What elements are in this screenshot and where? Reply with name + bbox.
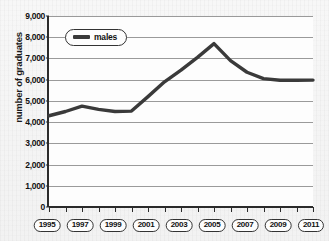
x-axis-tick-mark: [132, 207, 133, 212]
x-axis-tick-mark: [198, 207, 199, 212]
x-axis-year-label-2011: 2011: [298, 219, 324, 232]
y-axis-tick-label: 3,000: [25, 138, 45, 148]
x-axis-year-label-1997: 1997: [67, 219, 94, 232]
x-axis-tick-mark: [148, 207, 149, 212]
x-axis-year-label-2001: 2001: [133, 219, 160, 232]
legend-label-males: males: [94, 32, 117, 42]
y-axis-tick-label: 4,000: [25, 117, 45, 127]
x-axis-tick-mark: [247, 207, 248, 212]
x-axis-year-label-1999: 1999: [100, 219, 127, 232]
y-axis-title: number of graduates: [13, 18, 24, 138]
x-axis-tick-mark: [297, 207, 298, 212]
x-axis-tick-mark: [66, 207, 67, 212]
x-axis-year-label-1995: 1995: [34, 219, 61, 232]
y-axis-tick-label: 9,000: [25, 11, 45, 21]
y-axis-tick-label: 6,000: [25, 75, 45, 85]
x-axis-year-label-2003: 2003: [166, 219, 193, 232]
x-axis-tick-mark: [99, 207, 100, 212]
x-axis-year-label-2009: 2009: [265, 219, 292, 232]
x-axis-year-label-2005: 2005: [199, 219, 226, 232]
plot-area: 9,0008,0007,0006,0005,0004,0003,0002,000…: [47, 16, 313, 207]
y-axis-tick-label: 5,000: [25, 96, 45, 106]
y-axis-tick-label: 0: [41, 202, 45, 212]
y-axis-tick-label: 8,000: [25, 32, 45, 42]
series-line-males: [49, 44, 313, 116]
x-axis-tick-mark: [115, 207, 116, 212]
x-axis-tick-mark: [313, 207, 314, 212]
y-axis-tick-label: 1,000: [25, 181, 45, 191]
x-axis-year-label-2007: 2007: [232, 219, 259, 232]
x-axis-tick-mark: [82, 207, 83, 212]
y-axis-tick-label: 2,000: [25, 160, 45, 170]
x-axis-tick-mark: [165, 207, 166, 212]
legend-line-swatch: [73, 35, 90, 38]
x-axis-tick-mark: [181, 207, 182, 212]
x-axis-tick-mark: [214, 207, 215, 212]
chart-page: number of graduates 9,0008,0007,0006,000…: [0, 0, 329, 241]
chart-legend: males: [65, 29, 127, 46]
y-axis-tick-label: 7,000: [25, 53, 45, 63]
x-axis-tick-mark: [231, 207, 232, 212]
x-axis-tick-mark: [264, 207, 265, 212]
x-axis-tick-mark: [280, 207, 281, 212]
x-axis-tick-mark: [49, 207, 50, 212]
